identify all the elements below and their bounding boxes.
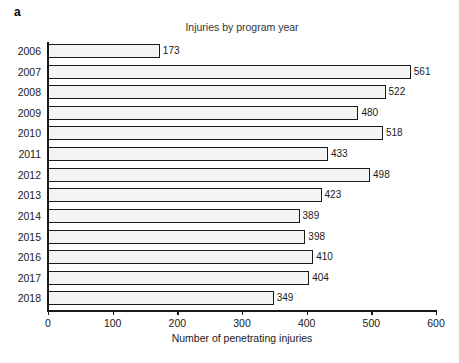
chart-title: Injuries by program year: [48, 22, 436, 33]
bar-row: 2016410: [48, 248, 436, 269]
bar-2011[interactable]: [48, 147, 328, 161]
bar-value-label-2009: 480: [361, 105, 378, 121]
bar-2008[interactable]: [48, 85, 386, 99]
figure-panel: a Injuries by program year 2006173200756…: [0, 0, 459, 363]
y-tick-label-2006: 2006: [18, 42, 41, 60]
x-tick-label-100: 100: [104, 317, 122, 329]
y-tick-label-2012: 2012: [18, 166, 41, 184]
bar-2012[interactable]: [48, 168, 370, 182]
y-tick-label-2007: 2007: [18, 63, 41, 81]
bar-row: 2006173: [48, 42, 436, 63]
bar-row: 2011433: [48, 145, 436, 166]
bar-row: 2015398: [48, 228, 436, 249]
bar-2006[interactable]: [48, 44, 160, 58]
bar-value-label-2017: 404: [312, 270, 329, 286]
x-tick-100: [113, 310, 114, 315]
bar-value-label-2010: 518: [386, 125, 403, 141]
bar-row: 2010518: [48, 124, 436, 145]
x-tick-label-500: 500: [363, 317, 381, 329]
y-tick-label-2016: 2016: [18, 248, 41, 266]
bar-row: 2014389: [48, 207, 436, 228]
x-tick-200: [177, 310, 178, 315]
bar-2007[interactable]: [48, 65, 411, 79]
bar-2015[interactable]: [48, 230, 305, 244]
x-tick-400: [307, 310, 308, 315]
y-tick-label-2018: 2018: [18, 289, 41, 307]
bar-row: 2018349: [48, 289, 436, 310]
bar-row: 2009480: [48, 104, 436, 125]
x-tick-500: [371, 310, 372, 315]
bar-row: 2012498: [48, 166, 436, 187]
bar-2018[interactable]: [48, 291, 274, 305]
bar-value-label-2018: 349: [277, 290, 294, 306]
bar-row: 2017404: [48, 269, 436, 290]
y-tick-label-2014: 2014: [18, 207, 41, 225]
bar-2016[interactable]: [48, 250, 313, 264]
y-tick-label-2010: 2010: [18, 124, 41, 142]
y-tick-label-2015: 2015: [18, 228, 41, 246]
bar-2017[interactable]: [48, 271, 309, 285]
bar-value-label-2011: 433: [331, 146, 348, 162]
bar-2009[interactable]: [48, 106, 358, 120]
bar-value-label-2006: 173: [163, 43, 180, 59]
y-tick-label-2017: 2017: [18, 269, 41, 287]
x-tick-label-600: 600: [427, 317, 445, 329]
x-tick-600: [436, 310, 437, 315]
x-tick-label-0: 0: [45, 317, 51, 329]
bar-row: 2008522: [48, 83, 436, 104]
x-tick-label-400: 400: [298, 317, 316, 329]
x-axis-title: Number of penetrating injuries: [48, 333, 436, 345]
bar-value-label-2015: 398: [308, 229, 325, 245]
y-tick-label-2009: 2009: [18, 104, 41, 122]
plot-area: 2006173200756120085222009480201051820114…: [48, 42, 436, 310]
bar-value-label-2016: 410: [316, 249, 333, 265]
bar-row: 2013423: [48, 186, 436, 207]
y-tick-label-2011: 2011: [18, 145, 41, 163]
y-tick-label-2013: 2013: [18, 186, 41, 204]
y-tick-label-2008: 2008: [18, 83, 41, 101]
bar-2014[interactable]: [48, 209, 300, 223]
bar-2010[interactable]: [48, 126, 383, 140]
bar-value-label-2007: 561: [414, 64, 431, 80]
x-tick-0: [48, 310, 49, 315]
x-tick-300: [242, 310, 243, 315]
x-tick-label-200: 200: [169, 317, 187, 329]
panel-letter: a: [14, 6, 21, 18]
bar-value-label-2008: 522: [389, 84, 406, 100]
bar-2013[interactable]: [48, 188, 322, 202]
x-tick-label-300: 300: [233, 317, 251, 329]
bar-value-label-2012: 498: [373, 167, 390, 183]
bar-value-label-2014: 389: [303, 208, 320, 224]
bar-value-label-2013: 423: [325, 187, 342, 203]
bar-row: 2007561: [48, 63, 436, 84]
